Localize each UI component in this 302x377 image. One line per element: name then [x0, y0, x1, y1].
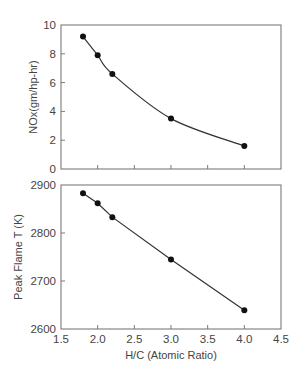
data-point: [241, 143, 247, 149]
data-point: [80, 34, 86, 40]
y-tick-label: 2: [50, 134, 56, 146]
y-tick-label: 10: [43, 19, 56, 31]
y-tick-label: 2900: [30, 179, 56, 191]
data-point: [241, 307, 247, 313]
data-point: [95, 52, 101, 58]
x-tick-label: 3.0: [163, 333, 179, 345]
y-axis-label: NOx(gm/hp-hr): [27, 60, 39, 133]
x-tick-label: 4.5: [273, 333, 289, 345]
data-point: [80, 190, 86, 196]
y-axis-label: Peak Flame T (K): [12, 214, 24, 300]
nox-plot: 0246810NOx(gm/hp-hr): [27, 19, 281, 175]
data-point: [168, 116, 174, 122]
series-line: [83, 193, 244, 310]
x-tick-label: 3.5: [200, 333, 216, 345]
y-tick-label: 2800: [30, 227, 56, 239]
y-tick-label: 4: [50, 105, 57, 117]
data-point: [168, 256, 174, 262]
y-tick-label: 2700: [30, 275, 56, 287]
data-point: [109, 214, 115, 220]
x-tick-label: 1.5: [53, 333, 69, 345]
x-tick-label: 4.0: [236, 333, 252, 345]
x-tick-label: 2.0: [90, 333, 106, 345]
x-tick-label: 2.5: [126, 333, 142, 345]
chart-figure: 0246810NOx(gm/hp-hr) 26002700280029001.5…: [0, 0, 302, 377]
y-tick-label: 6: [50, 77, 56, 89]
y-tick-label: 8: [50, 48, 56, 60]
flame-temperature-plot: 26002700280029001.52.02.53.03.54.04.5Pea…: [12, 179, 289, 361]
series-line: [83, 37, 244, 146]
data-point: [109, 71, 115, 77]
x-axis-label: H/C (Atomic Ratio): [125, 349, 217, 361]
y-tick-label: 0: [50, 163, 56, 175]
data-point: [95, 200, 101, 206]
plot-frame: [61, 25, 281, 169]
